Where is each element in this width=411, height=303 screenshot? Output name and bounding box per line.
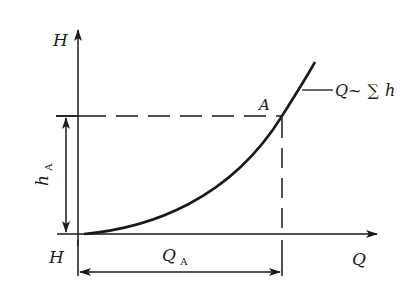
- point-a-label: A: [257, 96, 270, 114]
- diagram-canvas: H H Q A Q~ ∑ h h A Q A: [0, 0, 411, 303]
- h-a-label-main: h: [32, 175, 52, 186]
- h-a-label: h A: [32, 163, 54, 186]
- characteristic-curve: [84, 62, 315, 234]
- h-a-label-sub: A: [43, 163, 54, 172]
- q-a-label-sub: A: [179, 256, 188, 267]
- y-axis-label: H: [52, 30, 69, 50]
- curve-label: Q~ ∑ h: [335, 81, 395, 100]
- svg-text:h A: h A: [32, 163, 54, 186]
- curve-label-q: Q~: [335, 81, 362, 100]
- q-a-label: Q A: [162, 245, 188, 267]
- curve-label-sum: ∑: [368, 81, 380, 100]
- q-a-label-main: Q: [162, 245, 176, 265]
- x-axis-label: Q: [352, 249, 366, 269]
- origin-label: H: [48, 247, 65, 267]
- curve-label-h: h: [385, 81, 395, 100]
